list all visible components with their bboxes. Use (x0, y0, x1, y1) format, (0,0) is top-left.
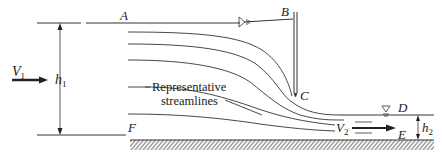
annotation-leader-right (225, 100, 262, 115)
label-v1-sub: 1 (21, 71, 26, 81)
label-v2: V2 (336, 120, 348, 137)
label-b: B (281, 4, 289, 19)
label-v1: V1 (12, 64, 25, 81)
label-h2: h2 (422, 120, 433, 137)
sluice-gate-diagram: A B C D E F V1 h1 V2 h2 Representative s… (0, 0, 442, 162)
streamline-5 (128, 114, 335, 131)
label-f: F (127, 120, 137, 135)
label-h2-sub: 2 (429, 127, 434, 137)
annotation-line-2: streamlines (161, 94, 218, 108)
label-d: D (397, 100, 408, 115)
h1-arrow-top (58, 23, 63, 30)
label-e: E (397, 127, 406, 142)
label-a: A (119, 8, 128, 23)
label-c: C (300, 88, 309, 103)
sluice-gate-tip (294, 93, 297, 97)
h2-arrow-bottom (416, 134, 420, 140)
h2-arrow-top (416, 115, 420, 121)
label-v2-sub: 2 (344, 127, 349, 137)
upstream-surface-to-gate (244, 19, 293, 22)
label-h1-main: h (55, 72, 62, 87)
h1-arrow-bottom (58, 128, 63, 135)
v2-arrowhead (386, 125, 396, 132)
label-h1-sub: 1 (62, 79, 67, 89)
label-h1: h1 (55, 72, 67, 89)
annotation-line-1: Representative (152, 80, 227, 94)
v1-arrowhead (39, 77, 48, 84)
channel-bed-hatch (130, 140, 434, 150)
